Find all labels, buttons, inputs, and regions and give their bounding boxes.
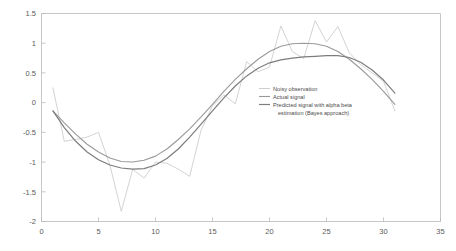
y-tick-label: 1	[32, 39, 36, 48]
x-tick-label: 20	[265, 227, 273, 236]
plot-border	[42, 14, 441, 222]
y-tick-label: 1.5	[26, 9, 36, 18]
legend-label-noisy-observation: Noisy observation	[273, 86, 317, 92]
line-chart: 1.5 1 0.5 0 -0.5 -1 -1.5 -2 0 5 10 15 20…	[0, 0, 456, 251]
legend-label-predicted-signal: Predicted signal with alpha beta	[273, 102, 353, 108]
y-tick-label: -0.5	[23, 128, 36, 137]
chart-figure: 1.5 1 0.5 0 -0.5 -1 -1.5 -2 0 5 10 15 20…	[0, 0, 456, 251]
x-axis-ticks: 0 5 10 15 20 25 30 35	[39, 218, 444, 237]
x-tick-label: 10	[151, 227, 159, 236]
x-tick-label: 0	[39, 227, 43, 236]
legend-label-actual-signal: Actual signal	[273, 94, 305, 100]
y-tick-label: 0.5	[26, 69, 36, 78]
x-tick-label: 15	[208, 227, 216, 236]
x-tick-label: 30	[379, 227, 387, 236]
y-tick-label: -2	[29, 217, 36, 226]
y-axis-ticks: 1.5 1 0.5 0 -0.5 -1 -1.5 -2	[23, 9, 45, 226]
chart-legend: Noisy observation Actual signal Predicte…	[259, 86, 353, 116]
x-tick-label: 35	[436, 227, 444, 236]
y-tick-label: -1.5	[23, 188, 36, 197]
axes-frame	[42, 14, 441, 222]
x-tick-label: 25	[322, 227, 330, 236]
legend-label-predicted-signal-cont: estimation (Bayes approach)	[278, 110, 349, 116]
y-tick-label: -1	[29, 158, 36, 167]
y-tick-label: 0	[32, 98, 36, 107]
x-tick-label: 5	[96, 227, 100, 236]
